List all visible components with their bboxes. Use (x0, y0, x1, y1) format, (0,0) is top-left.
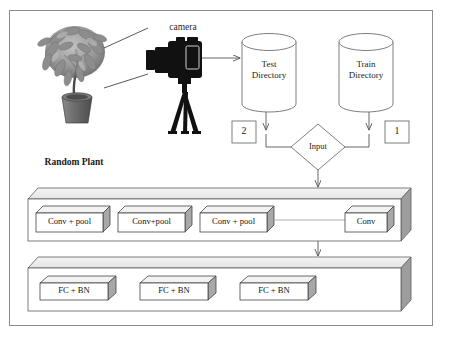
test-directory-label-line1: Test (242, 60, 296, 70)
conv-layer-label: Conv (345, 217, 387, 226)
diagram-figure: camera Random Plant Test Directory Train… (0, 0, 451, 341)
test-directory-label-line2: Directory (240, 71, 298, 81)
badge-label-1: 1 (385, 126, 409, 137)
conv-layer-label: Conv+pool (118, 217, 185, 226)
train-directory-label-line1: Train (339, 60, 393, 70)
potted-plant-photo (36, 26, 107, 123)
input-node-label: Input (296, 142, 340, 151)
fc-layer-label: FC + BN (140, 286, 208, 295)
random-plant-label: Random Plant (22, 157, 126, 167)
fc-layer-label: FC + BN (240, 286, 308, 295)
train-directory-label-line2: Directory (337, 71, 395, 81)
camera-fov-lines (104, 28, 148, 88)
badge-label-2: 2 (232, 126, 256, 137)
fc-layer-label: FC + BN (40, 286, 108, 295)
conv-layer-label: Conv + pool (200, 217, 267, 226)
camera-label: camera (150, 22, 216, 32)
camera-tripod-icon (146, 37, 202, 134)
conv-layer-label: Conv + pool (36, 217, 103, 226)
